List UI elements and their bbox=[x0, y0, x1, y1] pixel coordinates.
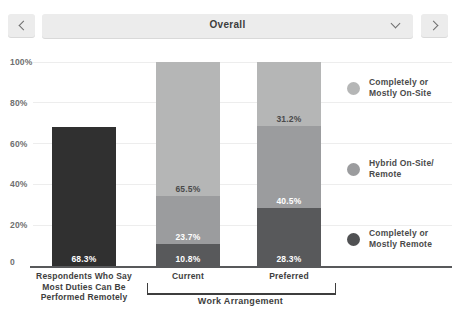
category-dropdown-value: Overall bbox=[42, 19, 413, 30]
bar-segment-value-label: 65.5% bbox=[156, 184, 220, 194]
bar-segment: 23.7% bbox=[156, 196, 220, 244]
bar-segment-value-label: 23.7% bbox=[156, 232, 220, 242]
legend-entry: Completely or Mostly On-Site bbox=[347, 77, 431, 99]
legend-dot-icon bbox=[347, 163, 360, 176]
x-axis-category-label: Preferred bbox=[214, 271, 364, 282]
bar-segment: 65.5% bbox=[156, 62, 220, 196]
bar-segment-value-label: 31.2% bbox=[257, 114, 321, 124]
y-gridline bbox=[33, 102, 452, 103]
previous-category-button[interactable] bbox=[8, 14, 35, 37]
legend-label: Hybrid On-Site/ Remote bbox=[369, 158, 434, 180]
chevron-right-icon bbox=[429, 21, 439, 31]
bar-segment: 28.3% bbox=[257, 208, 321, 266]
legend-entry: Hybrid On-Site/ Remote bbox=[347, 158, 434, 180]
legend-label: Completely or Mostly On-Site bbox=[369, 77, 431, 99]
bar-segment: 68.3% bbox=[52, 127, 116, 266]
chevron-left-icon bbox=[19, 21, 29, 31]
y-axis-tick-label: 0 bbox=[10, 257, 15, 267]
bar-segment-value-label: 10.8% bbox=[156, 254, 220, 264]
y-axis-tick-label: 100% bbox=[10, 57, 33, 67]
bar-segment-value-label: 28.3% bbox=[257, 254, 321, 264]
legend-dot-icon bbox=[347, 233, 360, 246]
y-gridline bbox=[33, 62, 452, 63]
next-category-button[interactable] bbox=[421, 14, 448, 37]
bar-segment-value-label: 40.5% bbox=[257, 196, 321, 206]
bar-segment: 10.8% bbox=[156, 244, 220, 266]
category-dropdown[interactable]: Overall bbox=[42, 14, 413, 38]
legend-entry: Completely or Mostly Remote bbox=[347, 228, 432, 250]
bar-segment: 31.2% bbox=[257, 62, 321, 126]
y-axis-tick-label: 20% bbox=[10, 220, 28, 230]
y-axis-tick-label: 80% bbox=[10, 98, 28, 108]
bar-segment: 40.5% bbox=[257, 126, 321, 209]
legend-dot-icon bbox=[347, 82, 360, 95]
y-axis-tick-label: 40% bbox=[10, 179, 28, 189]
remote-work-chart-widget: Overall 100%80%60%40%20%068.3%Respondent… bbox=[0, 0, 456, 325]
legend-label: Completely or Mostly Remote bbox=[369, 228, 432, 250]
x-axis-line bbox=[30, 266, 452, 268]
group-axis-label: Work Arrangement bbox=[198, 296, 283, 306]
work-arrangement-bracket bbox=[147, 283, 336, 295]
y-axis-tick-label: 60% bbox=[10, 139, 28, 149]
bar-segment-value-label: 68.3% bbox=[52, 254, 116, 264]
